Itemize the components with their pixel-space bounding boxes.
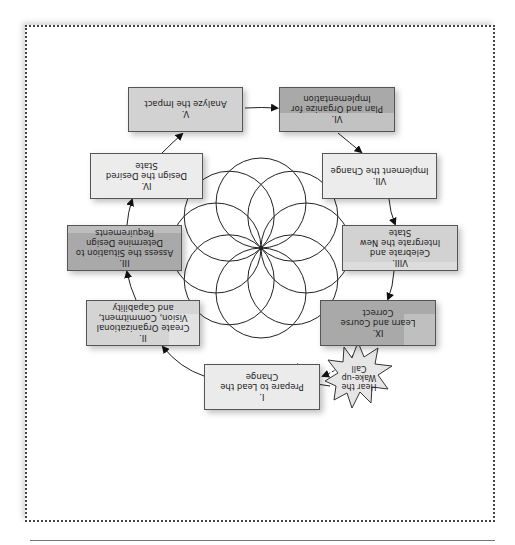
step-viii-label: Celebrate and Intergrate the New State (349, 228, 451, 258)
step-i-numeral: I. (211, 392, 313, 402)
step-iii-numeral: III. (74, 258, 175, 268)
step-i-label: Prepare to Lead the Change (211, 372, 313, 392)
step-iv-box[interactable]: IV. Design the Desired State (90, 153, 203, 199)
step-ii-box[interactable]: II. Create Organizational Vision, Commit… (86, 300, 200, 346)
step-ii-label: Create Organizational Vision, Commitment… (93, 303, 193, 333)
step-vi-numeral: VI. (286, 115, 388, 125)
step-vii-numeral: VII. (331, 176, 429, 186)
wake-up-call-label: Hear the Wake-up Call (334, 364, 384, 391)
step-vii-box[interactable]: VII. Implement the Change (322, 153, 437, 199)
step-ix-label: Learn and Course Correct (327, 308, 429, 328)
step-vi-label: Plan and Organize for Implementation (286, 95, 388, 115)
connectors-and-rosette (0, 0, 515, 545)
step-ii-numeral: II. (93, 333, 193, 343)
step-v-box[interactable]: V. Analyze the Impact (128, 87, 243, 132)
step-iii-box[interactable]: III. Assess the Situation to Determine D… (67, 225, 182, 271)
diagram-canvas: Hear the Wake-up Call V. Analyze the Imp… (0, 0, 515, 545)
step-iv-numeral: IV. (97, 181, 196, 191)
step-v-label: Analyze the Impact (144, 100, 226, 110)
step-ix-box[interactable]: IX. Learn and Course Correct (320, 300, 436, 346)
step-i-box[interactable]: I. Prepare to Lead the Change (204, 364, 320, 410)
step-v-numeral: V. (144, 110, 226, 120)
step-vi-box[interactable]: VI. Plan and Organize for Implementation (279, 87, 395, 132)
step-viii-numeral: VIII. (349, 258, 451, 268)
step-iii-label: Assess the Situation to Determine Design… (74, 228, 175, 258)
step-viii-box[interactable]: VIII. Celebrate and Intergrate the New S… (342, 225, 458, 271)
step-vii-label: Implement the Change (331, 166, 429, 176)
step-iv-label: Design the Desired State (97, 161, 196, 181)
step-ix-numeral: IX. (327, 328, 429, 338)
